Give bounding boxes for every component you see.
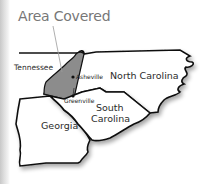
coverage-map: Area Covered Tennessee North Carolina So…: [0, 0, 209, 184]
asheville-marker: [71, 75, 74, 78]
map-title: Area Covered: [18, 9, 110, 23]
map-svg: [0, 0, 209, 184]
label-tennessee: Tennessee: [14, 64, 53, 72]
label-north-carolina: North Carolina: [110, 71, 179, 81]
label-south-carolina-line2: Carolina: [91, 114, 130, 124]
label-south-carolina-line1: South: [96, 103, 124, 113]
leader-line: [53, 26, 62, 72]
label-asheville: Asheville: [76, 74, 103, 80]
label-greenville: Greenville: [64, 98, 94, 104]
label-georgia: Georgia: [41, 121, 78, 131]
